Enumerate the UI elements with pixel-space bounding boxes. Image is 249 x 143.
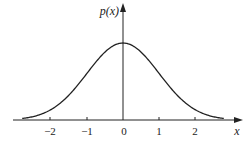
x-tick-label: 1 — [156, 125, 162, 137]
y-axis-arrow-icon — [120, 3, 126, 12]
x-axis-arrow-icon — [234, 117, 243, 123]
y-axis-label: p(x) — [99, 4, 119, 18]
x-tick-label: 2 — [192, 125, 198, 137]
x-tick-label: 0 — [121, 125, 127, 137]
x-axis-label: x — [233, 124, 240, 138]
chart: −2 −1 0 1 2 x p(x) — [0, 0, 249, 143]
x-tick-label: −1 — [81, 125, 93, 137]
x-tick-label: −2 — [44, 125, 56, 137]
